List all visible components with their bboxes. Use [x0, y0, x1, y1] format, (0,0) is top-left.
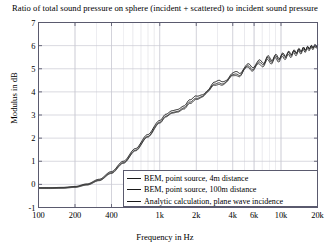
legend-entry-0: BEM, point source, 4m distance [127, 173, 317, 184]
legend-label: BEM, point source, 100m distance [144, 185, 256, 194]
svg-text:2k: 2k [192, 211, 201, 220]
legend-box: BEM, point source, 4m distance BEM, poin… [123, 170, 318, 207]
svg-text:4k: 4k [229, 211, 238, 220]
svg-text:200: 200 [69, 211, 82, 220]
svg-text:5: 5 [31, 65, 35, 74]
svg-text:1: 1 [31, 157, 35, 166]
svg-text:-1: -1 [29, 204, 36, 213]
svg-text:20k: 20k [311, 211, 324, 220]
svg-text:0: 0 [31, 180, 35, 189]
legend-entry-2: Analytic calculation, plane wave inciden… [127, 196, 317, 207]
legend-label: Analytic calculation, plane wave inciden… [144, 197, 283, 206]
legend-entry-1: BEM, point source, 100m distance [127, 184, 317, 195]
svg-text:6: 6 [31, 42, 35, 51]
svg-text:3: 3 [31, 111, 35, 120]
svg-text:4: 4 [31, 88, 36, 97]
legend-line-icon [127, 178, 141, 179]
legend-label: BEM, point source, 4m distance [144, 174, 248, 183]
svg-text:6k: 6k [250, 211, 259, 220]
legend-line-icon [127, 189, 141, 190]
chart-figure: Ratio of total sound pressure on sphere … [0, 0, 330, 252]
svg-text:400: 400 [105, 211, 118, 220]
legend-line-icon [127, 201, 141, 202]
y-tick-labels: -101234567 [29, 19, 37, 213]
svg-text:7: 7 [31, 19, 35, 28]
plot-area: 1002004001k2k4k6k10k20k -101234567 [0, 0, 330, 252]
svg-text:10k: 10k [275, 211, 288, 220]
svg-text:1k: 1k [156, 211, 165, 220]
x-tick-labels: 1002004001k2k4k6k10k20k [32, 211, 324, 220]
svg-text:2: 2 [31, 134, 35, 143]
